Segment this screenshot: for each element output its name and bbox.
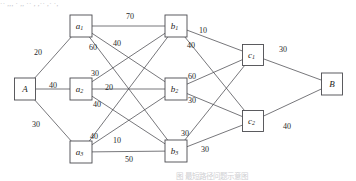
edge-weight-b2-c2: 30 [188,96,196,105]
node-a2[interactable]: a2 [70,78,92,100]
node-c1[interactable]: c1 [243,45,264,66]
edge-weight-c2-B: 40 [283,122,291,131]
node-A[interactable]: A [15,78,36,100]
node-c2[interactable]: c2 [243,111,264,132]
edge-weight-A-a2: 40 [49,81,57,90]
node-a1[interactable]: a1 [70,15,92,37]
edge-a3-b3 [92,151,165,152]
edge-c1-B [264,59,322,80]
node-label-B: B [329,79,335,89]
edge-weight-a2-b3: 40 [93,100,101,109]
edge-weight-a1-b3: 40 [113,39,121,48]
edge-weight-c1-B: 30 [279,45,287,54]
edge-weight-a2-b1: 30 [91,69,99,78]
edge-weight-b2-c1: 60 [188,72,196,81]
edge-weight-A-a1: 20 [34,48,42,57]
graph-canvas: Aa1a2a3b1b2b3c1c2B 204030706040302040401… [0,0,356,181]
edge-A-a1 [35,37,71,78]
edge-weight-a3-b1: 40 [90,132,98,141]
node-a3[interactable]: a3 [70,141,92,163]
edge-weight-a1-b1: 70 [126,12,134,21]
node-b1[interactable]: b1 [165,15,187,37]
network-diagram-figure: ·· ,,, · ,, ·· , ,·· ,· ·, Aa1a2a3b1b2b3… [0,0,356,181]
edge-weight-b3-c2: 30 [201,145,209,154]
edge-weight-b1-c2: 40 [187,41,195,50]
edge-weight-a3-b2: 10 [113,136,121,145]
edge-b1-c1 [187,30,243,51]
edge-A-a3 [35,100,71,141]
edge-weight-A-a3: 30 [32,120,40,129]
node-label-A: A [21,84,28,94]
node-b3[interactable]: b3 [165,140,187,162]
edge-c2-B [264,89,322,116]
edge-weight-a1-b2: 60 [89,43,97,52]
edge-b3-c2 [187,125,243,147]
clipped-caption-text: 图 最短路径问题示意图 [112,172,312,181]
edge-weight-a3-b3: 50 [125,155,133,164]
edge-weight-a2-b2: 20 [105,83,113,92]
node-B[interactable]: B [322,73,343,95]
edge-weight-b3-c1: 30 [181,129,189,138]
edge-weight-b1-c1: 10 [199,26,207,35]
node-b2[interactable]: b2 [165,78,187,100]
